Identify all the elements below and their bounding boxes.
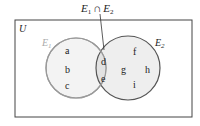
intersection-label: E1∩E2 [80,2,114,16]
element-i: i [133,79,136,90]
element-e: e [101,73,106,84]
universe-label: U [19,23,27,34]
element-d: d [101,56,106,67]
element-b: b [65,64,70,75]
element-c: c [65,80,70,91]
venn-diagram: E1∩E2 U E1 E2 a b c d e f g h i [0,0,200,126]
element-g: g [121,64,126,75]
element-a: a [65,45,70,56]
element-h: h [145,64,150,75]
